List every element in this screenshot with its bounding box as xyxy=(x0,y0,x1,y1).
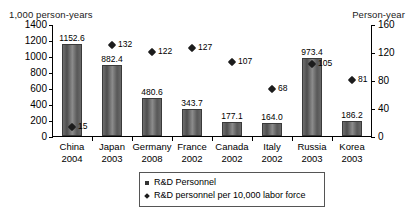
category-year: 2004 xyxy=(52,153,92,165)
bar xyxy=(342,121,362,136)
category-name: Canada xyxy=(212,141,252,153)
chart-legend: R&D Personnel R&D personnel per 10,000 l… xyxy=(139,172,325,207)
data-point-value-label: 107 xyxy=(238,57,252,66)
left-axis-tick-label: 1000 xyxy=(25,52,47,62)
category-label: Russia2003 xyxy=(292,141,332,165)
category-year: 2002 xyxy=(252,153,292,165)
category-year: 2003 xyxy=(332,153,372,165)
left-axis-tick xyxy=(49,105,53,106)
bar-value-label: 480.6 xyxy=(130,88,174,97)
chart-container: 1,000 person-years Person-year 020040060… xyxy=(0,0,412,219)
data-point-marker xyxy=(148,47,156,55)
bar-value-label: 186.2 xyxy=(330,111,374,120)
data-point-marker xyxy=(268,85,276,93)
category-year: 2002 xyxy=(212,153,252,165)
legend-square-icon xyxy=(145,181,149,185)
left-axis-tick xyxy=(49,73,53,74)
left-axis-tick-label: 600 xyxy=(30,84,47,94)
category-label: Germany2008 xyxy=(132,141,172,165)
right-axis-tick xyxy=(371,81,375,82)
bar xyxy=(222,122,242,136)
data-point-value-label: 15 xyxy=(78,122,87,131)
right-axis-tick-label: 120 xyxy=(378,48,395,58)
left-axis-tick xyxy=(49,89,53,90)
right-axis-tick xyxy=(371,25,375,26)
data-point-marker xyxy=(348,76,356,84)
right-axis-tick xyxy=(371,53,375,54)
bar xyxy=(262,123,282,136)
category-year: 2002 xyxy=(172,153,212,165)
category-name: China xyxy=(52,141,92,153)
legend-item-label: R&D Personnel xyxy=(154,177,216,188)
left-axis-tick-label: 200 xyxy=(30,116,47,126)
data-point-value-label: 132 xyxy=(118,40,132,49)
right-axis-tick-label: 0 xyxy=(378,132,384,142)
category-name: Korea xyxy=(332,141,372,153)
legend-item-label: R&D personnel per 10,000 labor force xyxy=(154,190,306,201)
category-name: Japan xyxy=(92,141,132,153)
data-point-value-label: 127 xyxy=(198,43,212,52)
data-point-value-label: 68 xyxy=(278,84,287,93)
bar xyxy=(142,98,162,136)
left-axis-tick xyxy=(49,121,53,122)
legend-diamond-icon xyxy=(144,193,150,199)
bar-value-label: 1152.6 xyxy=(50,34,94,43)
left-axis-tick-label: 800 xyxy=(30,68,47,78)
category-label: Korea2003 xyxy=(332,141,372,165)
category-year: 2003 xyxy=(292,153,332,165)
data-point-value-label: 105 xyxy=(318,59,332,68)
category-label: Canada2002 xyxy=(212,141,252,165)
category-name: France xyxy=(172,141,212,153)
bar-value-label: 164.0 xyxy=(250,113,294,122)
category-name: Italy xyxy=(252,141,292,153)
data-point-marker xyxy=(228,58,236,66)
left-axis-tick-label: 1200 xyxy=(25,36,47,46)
right-axis-tick-label: 40 xyxy=(378,104,389,114)
bar-value-label: 973.4 xyxy=(290,48,334,57)
right-axis-tick xyxy=(371,137,375,138)
left-axis-tick-label: 0 xyxy=(41,132,47,142)
bar-value-label: 177.1 xyxy=(210,112,254,121)
category-name: Germany xyxy=(132,141,172,153)
left-axis-tick-label: 400 xyxy=(30,100,47,110)
category-name: Russia xyxy=(292,141,332,153)
category-label: China2004 xyxy=(52,141,92,165)
legend-item-rd-personnel-per-10000: R&D personnel per 10,000 labor force xyxy=(145,189,319,202)
bar-value-label: 882.4 xyxy=(90,55,134,64)
category-year: 2003 xyxy=(92,153,132,165)
left-axis-tick xyxy=(49,57,53,58)
data-point-value-label: 122 xyxy=(158,47,172,56)
category-label: Italy2002 xyxy=(252,141,292,165)
right-axis-tick-label: 160 xyxy=(378,20,395,30)
category-label: France2002 xyxy=(172,141,212,165)
category-label: Japan2003 xyxy=(92,141,132,165)
right-axis-tick xyxy=(371,109,375,110)
bar xyxy=(182,109,202,136)
left-axis-tick-label: 1400 xyxy=(25,20,47,30)
bar-value-label: 343.7 xyxy=(170,99,214,108)
left-axis-tick xyxy=(49,137,53,138)
legend-item-rd-personnel: R&D Personnel xyxy=(145,176,319,189)
data-point-marker xyxy=(188,44,196,52)
data-point-marker xyxy=(108,40,116,48)
right-axis-tick-label: 80 xyxy=(378,76,389,86)
bar xyxy=(302,58,322,136)
plot-area: 0200400600800100012001400 04080120160 11… xyxy=(52,25,372,137)
left-axis-unit-label: 1,000 person-years xyxy=(9,9,93,20)
bar xyxy=(102,65,122,136)
data-point-value-label: 81 xyxy=(358,75,367,84)
left-axis-tick xyxy=(49,25,53,26)
category-year: 2008 xyxy=(132,153,172,165)
